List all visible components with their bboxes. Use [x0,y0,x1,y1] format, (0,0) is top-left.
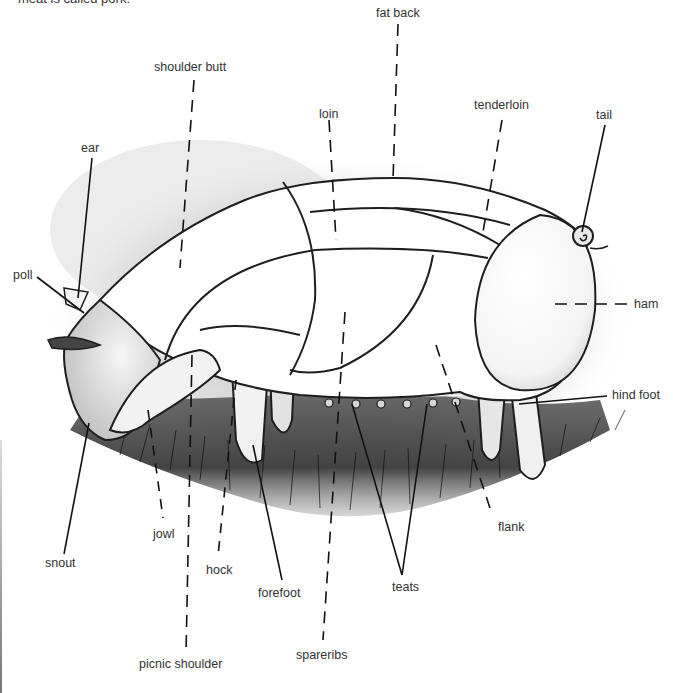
label-shoulder-butt: shoulder butt [154,60,226,74]
pig-cuts-diagram [0,0,673,693]
label-tenderloin: tenderloin [474,98,529,112]
label-flank: flank [498,520,524,534]
label-poll: poll [13,268,32,282]
leader-snout [64,423,89,554]
label-ham: ham [634,297,658,311]
label-forefoot: forefoot [258,586,300,600]
label-spareribs: spareribs [296,648,347,662]
label-loin: loin [319,107,338,121]
label-picnic-shoulder: picnic shoulder [139,657,222,671]
label-teats: teats [392,580,419,594]
label-jowl: jowl [153,527,175,541]
leader-tail [582,125,605,232]
label-ear: ear [81,141,99,155]
label-snout: snout [45,556,76,570]
label-hind-foot: hind foot [612,388,660,402]
label-fat-back: fat back [376,6,420,20]
label-hock: hock [206,563,232,577]
label-tail: tail [596,108,612,122]
